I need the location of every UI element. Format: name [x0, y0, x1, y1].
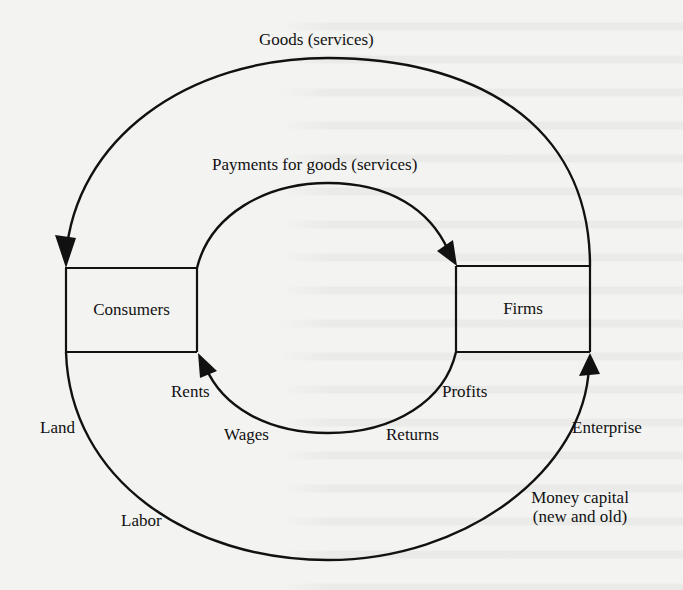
arrowhead-firms-top-icon	[437, 240, 457, 266]
money-capital-label: Money capital (new and old)	[520, 488, 640, 526]
firms-node: Firms	[456, 266, 590, 352]
rents-label: Rents	[171, 382, 210, 401]
money-capital-line2: (new and old)	[520, 507, 640, 526]
arrowhead-firms-bottom-icon	[579, 353, 600, 376]
wages-label: Wages	[224, 425, 269, 444]
arrowhead-consumers-bottom-icon	[198, 353, 217, 378]
arrowhead-consumers-top-icon	[55, 235, 76, 268]
returns-label: Returns	[386, 425, 439, 444]
money-capital-line1: Money capital	[520, 488, 640, 507]
labor-label: Labor	[121, 511, 162, 530]
payments-for-goods-label: Payments for goods (services)	[212, 155, 417, 174]
inner-top-arc-payments	[197, 183, 448, 268]
consumers-label: Consumers	[93, 300, 170, 320]
goods-services-label: Goods (services)	[259, 30, 374, 49]
inner-bottom-arc-incomes	[206, 352, 456, 433]
land-label: Land	[40, 418, 75, 437]
firms-label: Firms	[503, 299, 543, 319]
consumers-node: Consumers	[66, 268, 197, 352]
enterprise-label: Enterprise	[572, 418, 642, 437]
profits-label: Profits	[442, 382, 487, 401]
